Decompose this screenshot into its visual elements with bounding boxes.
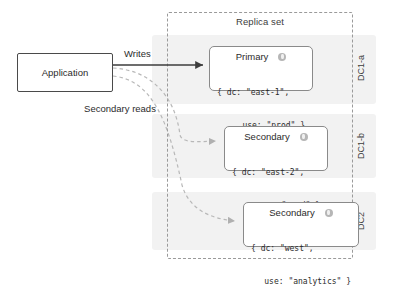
node-secondary-2[interactable]: Secondary { dc: "west", use: "analytics"… xyxy=(243,202,359,247)
writes-edge-label: Writes xyxy=(124,48,151,60)
node-secondary-1-tags-line1: { dc: "east-2", xyxy=(232,167,320,178)
node-secondary-2-tags: { dc: "west", use: "analytics" } xyxy=(251,221,351,290)
node-secondary-1[interactable]: Secondary { dc: "east-2", use: "prod" } xyxy=(224,126,328,171)
node-primary[interactable]: Primary { dc: "east-1", use: "prod" } xyxy=(209,46,313,91)
database-icon xyxy=(325,209,333,217)
node-primary-tags-line1: { dc: "east-1", xyxy=(217,87,305,98)
secondary-reads-edge-label: Secondary reads xyxy=(80,103,160,115)
database-icon xyxy=(278,53,286,61)
application-label: Application xyxy=(42,67,88,78)
node-primary-title: Primary xyxy=(236,51,269,62)
node-secondary-1-header: Secondary xyxy=(232,130,320,143)
node-secondary-2-tags-line2: use: "analytics" } xyxy=(251,276,351,287)
database-icon xyxy=(300,133,308,141)
application-box[interactable]: Application xyxy=(17,53,113,92)
node-secondary-2-title: Secondary xyxy=(269,207,314,218)
node-primary-header: Primary xyxy=(217,50,305,63)
node-secondary-2-tags-line1: { dc: "west", xyxy=(251,243,351,254)
node-secondary-1-title: Secondary xyxy=(244,131,289,142)
node-secondary-2-header: Secondary xyxy=(251,206,351,219)
